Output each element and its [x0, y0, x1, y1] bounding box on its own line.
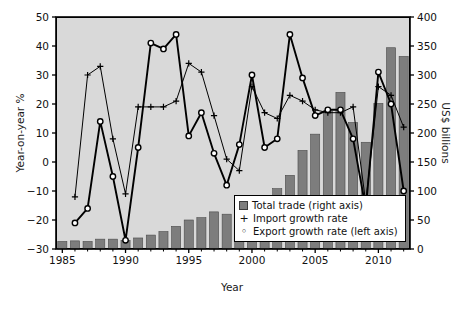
bar-1994 [172, 226, 181, 249]
marker-circle-1994 [173, 32, 178, 37]
y-axis-right-title: US$ billions [440, 102, 452, 163]
bar-1991 [134, 238, 143, 249]
marker-plus-1994 [173, 98, 179, 104]
y-tick-left-30: 30 [36, 69, 49, 81]
marker-circle-2008 [350, 136, 355, 141]
legend-item-import-growth: + Import growth rate [239, 212, 400, 225]
y-tick-left-10: 10 [36, 127, 49, 139]
bar-1988 [96, 239, 105, 249]
y-tick-right-400: 400 [417, 11, 437, 23]
marker-plus-1997 [211, 113, 217, 119]
y-tick-right-0: 0 [417, 243, 424, 255]
x-tick-2010: 2010 [365, 254, 392, 266]
marker-plus-2004 [299, 98, 305, 104]
bar-1985 [58, 241, 67, 249]
x-axis-title: Year [0, 281, 464, 293]
marker-circle-2002 [275, 136, 280, 141]
y-tick-right-50: 50 [417, 214, 430, 226]
marker-circle-2006 [325, 107, 330, 112]
y-tick-left-0: 0 [42, 156, 49, 168]
marker-circle-1989 [110, 174, 115, 179]
marker-circle-2000 [249, 72, 254, 77]
y-tick-right-300: 300 [417, 69, 437, 81]
bar-1987 [83, 241, 92, 249]
marker-circle-1987 [85, 206, 90, 211]
marker-circle-1988 [98, 119, 103, 124]
y-tick-right-200: 200 [417, 127, 437, 139]
y-tick-right-250: 250 [417, 98, 437, 110]
y-tick-left-50: 50 [36, 11, 49, 23]
y-tick-left--30: −30 [27, 243, 49, 255]
x-tick-1995: 1995 [175, 254, 202, 266]
y-tick-left-40: 40 [36, 40, 49, 52]
marker-circle-1986 [72, 220, 77, 225]
marker-plus-2001 [262, 110, 268, 116]
marker-circle-1993 [161, 46, 166, 51]
legend-label-import-growth: Import growth rate [253, 213, 348, 224]
marker-plus-1989 [110, 136, 116, 142]
marker-plus-2008 [350, 104, 356, 110]
marker-circle-1999 [237, 142, 242, 147]
legend-item-total-trade: Total trade (right axis) [239, 199, 400, 212]
bar-1992 [146, 235, 155, 249]
y-axis-left-title: Year-on-year % [14, 94, 26, 173]
marker-circle-1991 [135, 145, 140, 150]
marker-plus-1992 [148, 104, 154, 110]
marker-circle-1990 [123, 238, 128, 243]
y-tick-left--10: −10 [27, 185, 49, 197]
bar-1997 [209, 212, 218, 249]
marker-circle-2001 [262, 145, 267, 150]
x-tick-2005: 2005 [302, 254, 329, 266]
bar-1993 [159, 232, 168, 249]
y-tick-right-150: 150 [417, 156, 437, 168]
chart-legend: Total trade (right axis) + Import growth… [234, 195, 406, 242]
plus-icon: + [239, 213, 249, 224]
marker-plus-1996 [198, 69, 204, 75]
chart-figure: −30−20−100102030405005010015020025030035… [0, 0, 464, 311]
bar-1996 [197, 218, 206, 249]
marker-circle-1992 [148, 40, 153, 45]
marker-plus-1993 [160, 104, 166, 110]
marker-circle-1995 [186, 133, 191, 138]
square-icon [239, 201, 248, 210]
y-tick-right-100: 100 [417, 185, 437, 197]
legend-item-export-growth: ◦ Export growth rate (left axis) [239, 225, 400, 238]
marker-circle-2003 [287, 32, 292, 37]
marker-plus-1991 [135, 104, 141, 110]
bar-1995 [184, 220, 193, 249]
marker-circle-2004 [300, 75, 305, 80]
y-tick-left--20: −20 [27, 214, 49, 226]
marker-plus-1987 [85, 72, 91, 78]
marker-circle-1998 [224, 183, 229, 188]
bar-1986 [70, 241, 79, 249]
marker-plus-2003 [287, 92, 293, 98]
marker-plus-1986 [72, 194, 78, 200]
marker-circle-2010 [376, 69, 381, 74]
bar-1989 [108, 239, 117, 249]
chart-canvas: −30−20−100102030405005010015020025030035… [0, 0, 464, 311]
marker-plus-1990 [122, 191, 128, 197]
marker-plus-1995 [186, 60, 192, 66]
x-tick-1990: 1990 [112, 254, 139, 266]
marker-circle-2007 [338, 107, 343, 112]
y-tick-right-350: 350 [417, 40, 437, 52]
circle-icon: ◦ [239, 226, 249, 237]
legend-label-export-growth: Export growth rate (left axis) [253, 226, 398, 237]
marker-plus-1988 [97, 63, 103, 69]
marker-circle-1996 [199, 110, 204, 115]
marker-circle-2011 [388, 101, 393, 106]
marker-circle-2012 [401, 188, 406, 193]
bar-1998 [222, 214, 231, 249]
legend-label-total-trade: Total trade (right axis) [252, 200, 363, 211]
x-tick-2000: 2000 [239, 254, 266, 266]
marker-circle-1997 [211, 151, 216, 156]
marker-circle-2005 [312, 113, 317, 118]
x-tick-1985: 1985 [49, 254, 76, 266]
y-tick-left-20: 20 [36, 98, 49, 110]
